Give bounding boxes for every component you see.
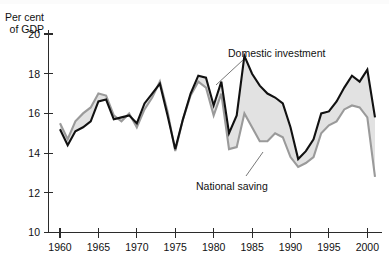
x-tick-label-1970: 1970 [125, 241, 149, 253]
y-axis-tick-labels: 101214161820 [28, 28, 40, 239]
y-tick-label-12: 12 [28, 187, 40, 199]
scan-artifact-strip [0, 0, 389, 4]
x-tick-label-1965: 1965 [87, 241, 111, 253]
x-tick-label-1990: 1990 [279, 241, 303, 253]
x-tick-label-2000: 2000 [356, 241, 380, 253]
y-tick-label-20: 20 [28, 28, 40, 40]
national-saving-label: National saving [196, 180, 268, 192]
plot-area [60, 56, 375, 177]
x-tick-label-1985: 1985 [240, 241, 264, 253]
y-tick-label-14: 14 [28, 147, 40, 159]
y-tick-label-18: 18 [28, 68, 40, 80]
chart-root: Per cent of GDP 101214161820 Domestic in… [0, 0, 389, 265]
domestic-investment-label: Domestic investment [228, 47, 326, 59]
national-saving-leader-line [246, 152, 263, 176]
x-tick-label-1980: 1980 [202, 241, 226, 253]
domestic-investment-leader-line [216, 60, 243, 85]
y-tick-label-16: 16 [28, 107, 40, 119]
investment-saving-line-chart: Per cent of GDP 101214161820 Domestic in… [0, 0, 389, 265]
x-axis-tick-labels: 196019651970197519801985199019952000 [48, 241, 379, 253]
y-tick-label-10: 10 [28, 226, 40, 238]
gap-shaded-band [60, 56, 375, 177]
x-tick-label-1995: 1995 [317, 241, 341, 253]
x-tick-label-1960: 1960 [48, 241, 72, 253]
y-axis-title-line1: Per cent [5, 11, 44, 23]
x-tick-label-1975: 1975 [164, 241, 188, 253]
